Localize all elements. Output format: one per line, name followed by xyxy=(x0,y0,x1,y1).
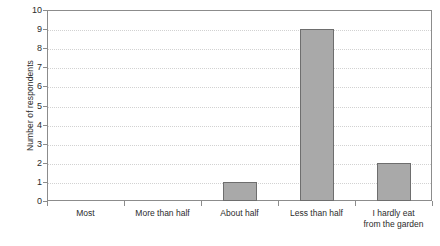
y-tick-label: 0 xyxy=(20,196,42,206)
x-tick-label-line: Most xyxy=(76,208,94,218)
x-tick-label-line: from the garden xyxy=(355,219,432,230)
x-tick-mark xyxy=(124,201,125,206)
x-tick-label: Less than half xyxy=(278,208,355,219)
bar xyxy=(300,29,334,201)
y-tick-label: 8 xyxy=(20,43,42,53)
x-tick-mark xyxy=(432,201,433,206)
y-tick-label: 10 xyxy=(20,5,42,15)
bar-chart: Number of respondents 012345678910 MostM… xyxy=(0,0,440,246)
x-tick-label-line: Less than half xyxy=(290,208,343,218)
y-tick-label: 2 xyxy=(20,158,42,168)
y-tick-label: 7 xyxy=(20,62,42,72)
y-tick-label: 4 xyxy=(20,120,42,130)
y-tick-label: 6 xyxy=(20,81,42,91)
x-tick-mark xyxy=(355,201,356,206)
x-tick-mark xyxy=(47,201,48,206)
x-tick-mark xyxy=(201,201,202,206)
y-tick-label: 3 xyxy=(20,139,42,149)
bar xyxy=(223,182,257,201)
x-tick-label: More than half xyxy=(124,208,201,219)
x-tick-label-line: About half xyxy=(220,208,258,218)
x-tick-label: I hardly eatfrom the garden xyxy=(355,208,432,230)
y-tick-label: 9 xyxy=(20,24,42,34)
y-tick-label: 1 xyxy=(20,177,42,187)
y-tick-label: 5 xyxy=(20,101,42,111)
x-tick-mark xyxy=(278,201,279,206)
x-tick-label: Most xyxy=(47,208,124,219)
x-tick-label-line: I hardly eat xyxy=(372,208,414,218)
x-tick-label: About half xyxy=(201,208,278,219)
x-tick-label-line: More than half xyxy=(135,208,189,218)
bars-layer xyxy=(47,10,432,201)
bar xyxy=(377,163,411,201)
